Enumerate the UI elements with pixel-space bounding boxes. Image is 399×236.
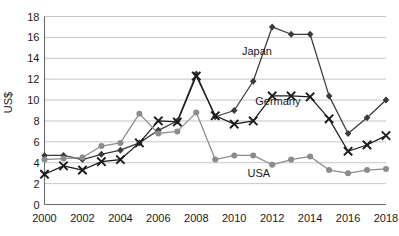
y-axis-tick-labels: 024681012141618 — [27, 11, 39, 211]
x-tick-label: 2012 — [260, 212, 284, 224]
data-point-usa — [79, 155, 85, 161]
data-point-germany — [383, 132, 390, 139]
series-label-germany: Germany — [255, 95, 301, 107]
x-tick-label: 2018 — [374, 212, 398, 224]
data-point-germany — [345, 148, 352, 155]
data-point-usa — [155, 130, 161, 136]
axis-lines — [45, 17, 387, 205]
data-point-usa — [383, 166, 389, 172]
data-point-japan — [117, 147, 124, 154]
data-point-japan — [307, 31, 314, 38]
y-tick-label: 6 — [33, 136, 39, 148]
data-point-usa — [117, 140, 123, 146]
x-tick-label: 2006 — [146, 212, 170, 224]
y-tick-label: 4 — [33, 157, 39, 169]
y-tick-label: 2 — [33, 178, 39, 190]
x-tick-label: 2002 — [70, 212, 94, 224]
series-markers — [41, 23, 390, 177]
x-tick-label: 2014 — [298, 212, 322, 224]
data-point-usa — [174, 128, 180, 134]
data-point-usa — [288, 157, 294, 163]
series-label-japan: Japan — [242, 45, 272, 57]
data-point-usa — [42, 157, 48, 163]
gridlines — [45, 17, 387, 205]
x-axis-tick-labels: 2000200220042006200820102012201420162018 — [32, 212, 398, 224]
data-point-germany — [364, 141, 371, 148]
y-tick-label: 14 — [27, 52, 39, 64]
data-point-japan — [288, 31, 295, 38]
data-point-usa — [98, 143, 104, 149]
data-point-japan — [326, 92, 333, 99]
x-tick-label: 2010 — [222, 212, 246, 224]
data-point-usa — [60, 156, 66, 162]
x-tick-label: 2000 — [32, 212, 56, 224]
data-point-usa — [136, 111, 142, 117]
y-tick-label: 0 — [33, 199, 39, 211]
data-point-japan — [98, 151, 105, 158]
y-tick-label: 10 — [27, 94, 39, 106]
data-point-usa — [364, 167, 370, 173]
data-point-usa — [326, 167, 332, 173]
line-chart: 024681012141618 200020022004200620082010… — [0, 0, 399, 236]
x-tick-label: 2016 — [336, 212, 360, 224]
data-point-usa — [345, 170, 351, 176]
y-axis-title: US$ — [2, 92, 14, 113]
data-point-usa — [307, 153, 313, 159]
y-tick-label: 16 — [27, 31, 39, 43]
chart-container: 024681012141618 200020022004200620082010… — [0, 0, 399, 236]
data-point-japan — [269, 23, 276, 30]
data-point-usa — [250, 152, 256, 158]
x-tick-label: 2008 — [184, 212, 208, 224]
y-tick-label: 18 — [27, 11, 39, 23]
y-tick-label: 12 — [27, 73, 39, 85]
series-line-japan — [45, 27, 387, 160]
series-label-usa: USA — [248, 167, 271, 179]
x-tick-label: 2004 — [108, 212, 132, 224]
data-point-usa — [193, 110, 199, 116]
y-axis-title: US$ — [2, 92, 14, 113]
data-point-usa — [212, 157, 218, 163]
series-lines — [45, 27, 387, 174]
y-tick-label: 8 — [33, 115, 39, 127]
data-point-usa — [231, 152, 237, 158]
